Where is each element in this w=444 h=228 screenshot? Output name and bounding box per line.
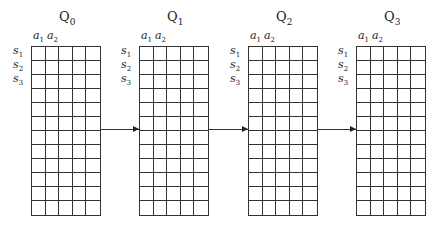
q-table-cell: [276, 47, 290, 61]
q-table-cell: [290, 89, 304, 103]
q-table-cell: [249, 117, 263, 131]
row-label: s2: [230, 58, 246, 73]
q-table-cell: [276, 173, 290, 187]
q-table-cell: [411, 75, 425, 89]
q-table-cell: [357, 201, 371, 215]
q-table-cell: [86, 103, 100, 117]
q-table-cell: [411, 173, 425, 187]
q-table-cell: [73, 173, 87, 187]
q-table-cell: [59, 145, 73, 159]
q-table-cell: [86, 47, 100, 61]
q-table-cell: [384, 201, 398, 215]
column-labels: a1a2: [358, 29, 386, 44]
q-table-cell: [249, 89, 263, 103]
q-table-cell: [290, 117, 304, 131]
q-table-cell: [86, 117, 100, 131]
q-table-cell: [276, 103, 290, 117]
q-table-cell: [263, 117, 277, 131]
q-table-cell: [167, 131, 181, 145]
q-table-cell: [303, 61, 317, 75]
column-label: a2: [155, 29, 169, 44]
column-label: a1: [250, 29, 264, 44]
panel-title-base: Q: [59, 9, 70, 24]
q-table-cell: [86, 159, 100, 173]
arrow-right-icon: [209, 129, 248, 130]
q-table-cell: [167, 117, 181, 131]
q-table-cell: [46, 117, 60, 131]
q-table-cell: [86, 75, 100, 89]
q-table-cell: [357, 61, 371, 75]
q-table-cell: [276, 187, 290, 201]
q-table-cell: [276, 131, 290, 145]
q-table-cell: [140, 173, 154, 187]
q-table-cell: [59, 47, 73, 61]
q-table-cell: [140, 131, 154, 145]
q-table-cell: [32, 201, 46, 215]
q-table-cell: [249, 103, 263, 117]
row-label: s3: [13, 72, 29, 87]
q-table-cell: [384, 61, 398, 75]
q-table-cell: [371, 75, 385, 89]
q-table-grid: [139, 46, 209, 216]
q-table-cell: [46, 187, 60, 201]
q-table-cell: [73, 145, 87, 159]
q-table-cell: [167, 103, 181, 117]
q-table-cell: [411, 61, 425, 75]
q-table-cell: [73, 61, 87, 75]
q-table-cell: [167, 201, 181, 215]
q-table-cell: [357, 89, 371, 103]
q-table-cell: [59, 201, 73, 215]
q-table-cell: [32, 131, 46, 145]
q-table-cell: [263, 145, 277, 159]
q-table-grid: [356, 46, 426, 216]
q-table-cell: [371, 61, 385, 75]
q-table-cell: [398, 103, 412, 117]
q-table-cell: [154, 131, 168, 145]
q-table-cell: [411, 201, 425, 215]
column-label-subscript: 2: [162, 36, 166, 44]
column-label: a1: [358, 29, 372, 44]
q-table-cell: [384, 117, 398, 131]
panel-title: Q0: [59, 9, 75, 27]
q-table-cell: [276, 145, 290, 159]
row-label: s3: [121, 72, 137, 87]
column-label: a2: [264, 29, 278, 44]
q-table-cell: [249, 159, 263, 173]
q-table-cell: [86, 89, 100, 103]
q-table-grid: [31, 46, 101, 216]
q-table-cell: [384, 131, 398, 145]
q-table-cell: [167, 75, 181, 89]
q-table-cell: [167, 187, 181, 201]
q-table-cell: [290, 61, 304, 75]
q-table-cell: [46, 131, 60, 145]
q-table-cell: [276, 61, 290, 75]
q-table-cell: [167, 61, 181, 75]
q-table-cell: [371, 201, 385, 215]
q-table-cell: [140, 89, 154, 103]
q-table-cell: [371, 103, 385, 117]
q-table-cell: [303, 201, 317, 215]
q-table-cell: [140, 103, 154, 117]
q-table-cell: [59, 173, 73, 187]
q-table-cell: [357, 145, 371, 159]
q-table-cell: [32, 47, 46, 61]
q-table-cell: [303, 117, 317, 131]
q-table-cell: [181, 61, 195, 75]
q-table-cell: [357, 117, 371, 131]
q-table-cell: [290, 103, 304, 117]
q-table-cell: [303, 131, 317, 145]
q-table-cell: [357, 103, 371, 117]
q-table-cell: [398, 145, 412, 159]
panel-title-base: Q: [276, 9, 287, 24]
q-table-cell: [398, 131, 412, 145]
q-table-cell: [398, 61, 412, 75]
q-table-cell: [73, 201, 87, 215]
arrow-right-icon: [101, 129, 139, 130]
q-table-cell: [249, 187, 263, 201]
q-table-cell: [290, 75, 304, 89]
q-table-cell: [154, 75, 168, 89]
panel-title-base: Q: [167, 9, 178, 24]
q-table-cell: [194, 173, 208, 187]
q-table-cell: [263, 61, 277, 75]
panel-title: Q3: [384, 9, 400, 27]
